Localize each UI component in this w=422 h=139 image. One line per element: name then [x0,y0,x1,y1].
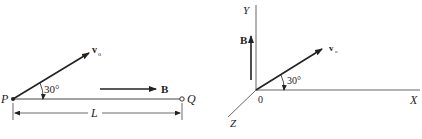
point-p-label: P [0,92,9,106]
axis-z-label: Z [230,117,237,129]
velocity-label: v [329,43,334,53]
axis-y-label: Y [243,4,251,16]
figure-right: Y X Z 0 B v o 30° [228,4,420,129]
field-b-label: B [161,83,169,95]
length-label: L [90,106,98,120]
angle-arc-icon [281,75,284,90]
diagram-canvas: P Q v o 30° B L Y X Z 0 B v o 30° [0,0,422,139]
velocity-subscript: o [335,49,338,54]
velocity-label: v [92,44,97,55]
angle-label: 30° [44,83,59,95]
velocity-subscript: o [98,51,101,57]
origin-label: 0 [258,94,263,105]
axis-x-label: X [409,93,418,107]
angle-arc-icon [40,83,43,99]
axis-z [228,90,256,117]
figure-left: P Q v o 30° B L [0,44,196,120]
point-q-circle [180,97,184,101]
field-b-label: B [240,34,248,46]
point-q-label: Q [187,92,196,106]
angle-label: 30° [287,75,301,86]
